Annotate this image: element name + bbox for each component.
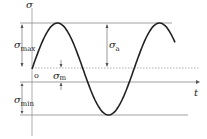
origin-label: o xyxy=(34,71,39,80)
arrow-down-icon xyxy=(21,111,24,114)
diagram-canvas: σ t o σ max σ min σ a σ m xyxy=(0,0,207,139)
arrow-up-icon xyxy=(106,24,109,28)
sigma-m-label: σ m xyxy=(53,70,67,82)
arrow-down-icon xyxy=(60,64,63,68)
time-axis-arrow-icon xyxy=(196,80,200,84)
arrow-up-icon xyxy=(21,83,24,86)
sigma-axis-label: σ xyxy=(26,0,34,10)
sigma-a-label: σ a xyxy=(109,39,120,53)
arrow-up-icon xyxy=(21,24,24,28)
svg-text:a: a xyxy=(116,45,120,53)
svg-text:min: min xyxy=(21,100,35,108)
sigma-min-label: σ min xyxy=(14,94,34,108)
arrow-down-icon xyxy=(106,63,109,67)
stress-cycle-diagram: σ t o σ max σ min σ a σ m xyxy=(0,0,207,139)
svg-text:max: max xyxy=(21,45,36,53)
time-axis-label: t xyxy=(194,87,199,98)
arrow-up-icon xyxy=(60,83,63,87)
svg-text:m: m xyxy=(60,74,67,82)
stress-curve xyxy=(32,23,175,115)
arrow-down-icon xyxy=(21,63,24,67)
